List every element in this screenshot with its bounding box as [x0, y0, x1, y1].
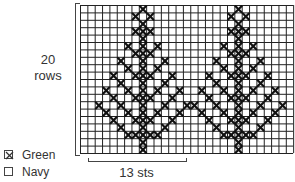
blank-square-icon	[4, 167, 13, 176]
cross-stitch	[118, 80, 124, 86]
cross-stitch	[228, 51, 234, 57]
cross-stitch	[236, 147, 242, 153]
cross-stitch	[147, 28, 153, 34]
cross-stitch	[258, 80, 264, 86]
cross-stitch	[236, 43, 242, 49]
cross-stitch	[140, 80, 146, 86]
cross-stitch	[162, 102, 168, 108]
cross-stitch	[250, 65, 256, 71]
cross-stitch	[191, 102, 197, 108]
cross-stitch	[140, 21, 146, 27]
cross-stitch	[236, 88, 242, 94]
cross-stitch	[155, 132, 161, 138]
cross-stitch	[103, 88, 109, 94]
cross-stitch	[96, 102, 102, 108]
cross-stitch	[272, 110, 278, 116]
cross-stitch	[236, 102, 242, 108]
cross-stitch	[250, 132, 256, 138]
stitch-chart-grid	[80, 5, 295, 154]
cross-stitch	[133, 28, 139, 34]
cross-stitch	[228, 14, 234, 20]
cross-stitch	[111, 117, 117, 123]
cross-stitch	[265, 95, 271, 101]
cross-stitch	[125, 65, 131, 71]
cross-stitch	[147, 73, 153, 79]
cross-stitch	[147, 132, 153, 138]
legend-label-navy: Navy	[22, 165, 49, 179]
cross-stitch	[228, 73, 234, 79]
cross-stitch	[147, 95, 153, 101]
cross-stitch	[147, 51, 153, 57]
cross-stitch	[243, 28, 249, 34]
cross-stitch	[236, 117, 242, 123]
legend-item-green: Green	[4, 146, 55, 163]
cross-stitch	[162, 125, 168, 131]
cross-stitch	[214, 102, 220, 108]
cross-stitch	[140, 73, 146, 79]
rows-label: 20 rows	[28, 52, 68, 84]
cross-stitch	[258, 58, 264, 64]
cross-stitch	[184, 102, 190, 108]
stitch-count-label: 13 sts	[88, 165, 185, 180]
cross-stitch	[236, 95, 242, 101]
cross-stitch	[221, 132, 227, 138]
cross-stitch	[140, 95, 146, 101]
cross-stitch	[228, 95, 234, 101]
cross-stitch	[206, 117, 212, 123]
cross-stitch	[243, 95, 249, 101]
cross-stitch	[258, 125, 264, 131]
cross-stitch	[250, 110, 256, 116]
stitch-repeat-bracket	[88, 158, 187, 162]
cross-stitch	[125, 132, 131, 138]
cross-stitch	[228, 132, 234, 138]
cross-stitch	[140, 147, 146, 153]
cross-stitch	[206, 95, 212, 101]
cross-stitch	[214, 125, 220, 131]
cross-stitch	[265, 73, 271, 79]
cross-stitch	[250, 88, 256, 94]
cross-stitch	[236, 36, 242, 42]
cross-stitch	[125, 88, 131, 94]
cross-stitch	[236, 80, 242, 86]
cross-stitch	[169, 117, 175, 123]
cross-stitch	[140, 117, 146, 123]
cross-stitch	[125, 43, 131, 49]
rows-count: 20	[28, 52, 68, 68]
cross-stitch	[133, 117, 139, 123]
cross-stitch	[140, 58, 146, 64]
cross-stitch	[111, 95, 117, 101]
legend-label-green: Green	[22, 148, 55, 162]
cross-stitch	[140, 43, 146, 49]
cross-stitch	[221, 88, 227, 94]
cross-stitch	[236, 51, 242, 57]
cross-stitch	[243, 14, 249, 20]
cross-stitch	[243, 132, 249, 138]
cross-stitch	[228, 117, 234, 123]
rows-word: rows	[28, 68, 68, 84]
cross-symbol-icon	[4, 150, 13, 159]
cross-stitch	[133, 132, 139, 138]
cross-stitch	[236, 28, 242, 34]
cross-stitch	[214, 58, 220, 64]
cross-stitch	[111, 73, 117, 79]
cross-stitch	[243, 51, 249, 57]
cross-stitch	[147, 14, 153, 20]
cross-stitch	[199, 110, 205, 116]
cross-stitch	[236, 21, 242, 27]
cross-stitch	[236, 6, 242, 12]
cross-stitch	[140, 65, 146, 71]
cross-stitch	[280, 102, 286, 108]
cross-stitch	[272, 88, 278, 94]
cross-stitch	[243, 117, 249, 123]
cross-stitch	[243, 73, 249, 79]
cross-stitch	[206, 73, 212, 79]
cross-stitch	[133, 73, 139, 79]
cross-stitch	[177, 88, 183, 94]
cross-stitch	[140, 102, 146, 108]
cross-stitch	[228, 28, 234, 34]
cross-stitch	[236, 132, 242, 138]
cross-stitch	[214, 80, 220, 86]
cross-stitch	[140, 36, 146, 42]
cross-stitch	[236, 65, 242, 71]
cross-stitch	[221, 43, 227, 49]
